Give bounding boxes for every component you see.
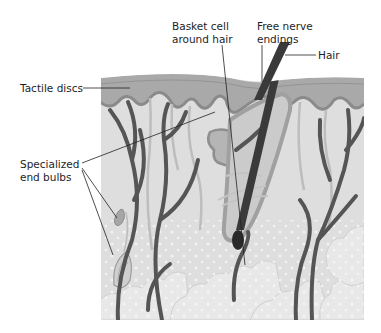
label-specialized-end-bulbs-2: end bulbs [20,171,72,183]
label-basket-cell-2: around hair [172,33,233,45]
label-specialized-end-bulbs-1: Specialized [20,158,79,170]
label-free-nerve-2: endings [257,33,299,45]
label-basket-cell-1: Basket cell [172,20,229,32]
label-tactile-discs: Tactile discs [20,82,83,94]
label-free-nerve-1: Free nerve [257,20,313,32]
label-hair: Hair [318,49,340,61]
